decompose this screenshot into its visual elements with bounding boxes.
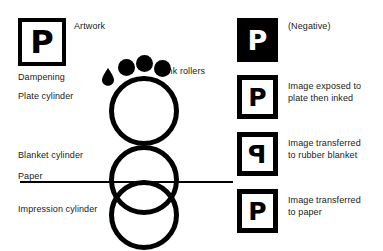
offset-printing-diagram: P Artwork Dampening Plate cylinder Blank…: [0, 0, 383, 251]
sample-box-blanket: P: [237, 132, 278, 176]
sample-box-plate: P: [237, 75, 278, 119]
sample-caption-negative: (Negative): [288, 20, 331, 32]
sample-glyph-plate: P: [248, 85, 266, 110]
blanket-cylinder-label: Blanket cylinder: [18, 149, 83, 161]
sample-caption-paper: Image transferred to paper: [288, 194, 361, 218]
dampening-droplet-icon: [101, 68, 115, 86]
sample-box-paper: P: [237, 189, 278, 233]
sample-caption-plate: Image exposed to plate then inked: [288, 80, 361, 104]
plate-cylinder-label: Plate cylinder: [18, 90, 73, 102]
impression-cylinder: [109, 180, 179, 250]
droplet-svg: [101, 68, 115, 86]
paper-line: [20, 181, 233, 183]
ink-rollers-label: Ink rollers: [165, 65, 205, 77]
impression-cylinder-label: Impression cylinder: [18, 203, 97, 215]
sample-glyph-paper: P: [248, 199, 266, 224]
artwork-box: P: [18, 18, 66, 66]
plate-cylinder: [109, 76, 179, 146]
sample-glyph-negative: P: [248, 27, 268, 54]
sample-box-negative: P: [237, 18, 278, 62]
dampening-label: Dampening: [18, 71, 65, 83]
ink-roller-1: [118, 59, 135, 76]
artwork-glyph: P: [30, 26, 53, 58]
ink-roller-3: [154, 60, 171, 77]
sample-caption-blanket: Image transferred to rubber blanket: [288, 137, 361, 161]
sample-glyph-blanket: P: [248, 142, 266, 167]
artwork-label: Artwork: [74, 20, 105, 32]
ink-roller-2: [136, 55, 153, 72]
